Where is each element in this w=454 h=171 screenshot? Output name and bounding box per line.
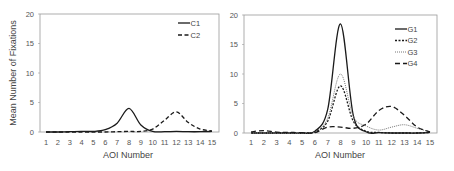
legend-label-c2: C2 <box>191 31 201 40</box>
x-tick-label: 13 <box>400 138 408 147</box>
x-tick-label: 15 <box>208 138 216 147</box>
x-axis-title: AOI Number <box>103 150 153 160</box>
x-tick-labels: 123456789101112131415 <box>249 138 434 147</box>
x-tick-label: 15 <box>426 138 434 147</box>
series-line-g2 <box>251 86 430 133</box>
series-line-g3 <box>251 74 430 133</box>
x-tick-label: 4 <box>287 138 291 147</box>
x-tick-label: 2 <box>56 138 60 147</box>
x-tick-label: 1 <box>249 138 253 147</box>
figure: Mean Number of Fixations AOI Number 0510… <box>0 0 454 171</box>
y-tick-label: 10 <box>26 69 34 78</box>
x-tick-label: 7 <box>326 138 330 147</box>
x-tick-label: 10 <box>362 138 370 147</box>
x-tick-label: 13 <box>184 138 192 147</box>
x-tick-label: 5 <box>300 138 304 147</box>
legend-label-g3: G3 <box>408 48 418 57</box>
chart-left: Mean Number of Fixations AOI Number 0510… <box>8 10 219 161</box>
y-tick-label: 15 <box>230 40 238 49</box>
x-tick-label: 12 <box>172 138 180 147</box>
y-tick-label: 0 <box>30 128 34 137</box>
series-lines <box>46 108 212 132</box>
x-tick-label: 8 <box>338 138 342 147</box>
legend-label-g1: G1 <box>408 25 418 34</box>
x-tick-label: 9 <box>139 138 143 147</box>
y-tick-label: 15 <box>26 39 34 48</box>
x-tick-label: 5 <box>91 138 95 147</box>
y-tick-label: 10 <box>230 70 238 79</box>
x-tick-label: 6 <box>313 138 317 147</box>
x-tick-label: 1 <box>44 138 48 147</box>
y-tick-labels: 05101520 <box>26 10 40 137</box>
x-tick-labels: 123456789101112131415 <box>44 138 216 147</box>
x-axis-title: AOI Number <box>315 150 365 160</box>
y-axis-title: Mean Number of Fixations <box>8 20 18 126</box>
x-tick-label: 10 <box>149 138 157 147</box>
y-tick-labels: 05101520 <box>230 11 244 138</box>
y-tick-label: 20 <box>26 10 34 19</box>
chart-right: AOI Number 05101520 12345678910111213141… <box>230 11 437 161</box>
series-line-c1 <box>46 108 212 132</box>
x-tick-label: 9 <box>351 138 355 147</box>
x-tick-label: 11 <box>161 138 169 147</box>
x-tick-label: 8 <box>127 138 131 147</box>
x-tick-label: 6 <box>103 138 107 147</box>
legend-label-g4: G4 <box>408 59 418 68</box>
y-tick-label: 5 <box>234 99 238 108</box>
legend: C1C2 <box>178 19 200 40</box>
x-tick-label: 3 <box>274 138 278 147</box>
legend-label-c1: C1 <box>191 19 201 28</box>
legend: G1G2G3G4 <box>395 25 418 69</box>
x-tick-label: 12 <box>387 138 395 147</box>
x-tick-label: 3 <box>68 138 72 147</box>
x-tick-label: 7 <box>115 138 119 147</box>
x-tick-label: 2 <box>262 138 266 147</box>
series-line-c2 <box>46 112 212 132</box>
y-tick-label: 5 <box>30 98 34 107</box>
x-tick-label: 11 <box>375 138 383 147</box>
legend-label-g2: G2 <box>408 36 418 45</box>
x-tick-label: 4 <box>79 138 83 147</box>
y-tick-label: 0 <box>234 129 238 138</box>
x-tick-label: 14 <box>413 138 421 147</box>
x-tick-label: 14 <box>196 138 204 147</box>
y-tick-label: 20 <box>230 11 238 20</box>
series-line-g4 <box>251 106 430 133</box>
